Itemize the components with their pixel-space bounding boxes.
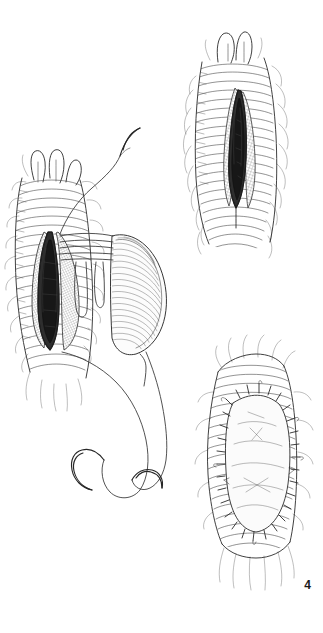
illustration-page: 4 bbox=[0, 0, 323, 633]
surgical-figure bbox=[0, 0, 323, 633]
page-number: 4 bbox=[304, 579, 311, 591]
